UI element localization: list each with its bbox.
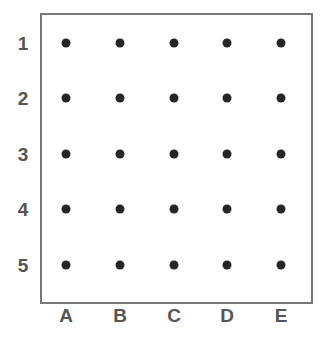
column-label-A: A	[59, 306, 73, 325]
grid-dot-B3[interactable]	[116, 150, 125, 159]
grid-dot-C2[interactable]	[170, 94, 179, 103]
grid-dot-A3[interactable]	[62, 150, 71, 159]
row-label-1: 1	[18, 34, 29, 53]
grid-dot-A4[interactable]	[62, 205, 71, 214]
column-label-C: C	[167, 306, 181, 325]
column-label-E: E	[275, 306, 288, 325]
grid-dot-B2[interactable]	[116, 94, 125, 103]
column-label-D: D	[220, 306, 234, 325]
grid-dot-matrix-figure: 12345 ABCDE	[0, 0, 331, 344]
grid-dot-E4[interactable]	[277, 205, 286, 214]
row-label-2: 2	[18, 89, 29, 108]
grid-dot-B4[interactable]	[116, 205, 125, 214]
grid-dot-A1[interactable]	[62, 39, 71, 48]
grid-dot-D1[interactable]	[223, 39, 232, 48]
grid-dot-E3[interactable]	[277, 150, 286, 159]
row-label-5: 5	[18, 256, 29, 275]
grid-dot-B1[interactable]	[116, 39, 125, 48]
grid-dot-C1[interactable]	[170, 39, 179, 48]
grid-dot-C5[interactable]	[170, 261, 179, 270]
grid-dot-D2[interactable]	[223, 94, 232, 103]
grid-dot-E2[interactable]	[277, 94, 286, 103]
grid-dot-A5[interactable]	[62, 261, 71, 270]
column-label-B: B	[113, 306, 127, 325]
row-label-3: 3	[18, 145, 29, 164]
grid-dot-E1[interactable]	[277, 39, 286, 48]
grid-dot-D3[interactable]	[223, 150, 232, 159]
grid-dot-C3[interactable]	[170, 150, 179, 159]
row-label-4: 4	[18, 200, 29, 219]
grid-dot-B5[interactable]	[116, 261, 125, 270]
grid-dot-E5[interactable]	[277, 261, 286, 270]
grid-dot-C4[interactable]	[170, 205, 179, 214]
grid-dot-A2[interactable]	[62, 94, 71, 103]
grid-dot-D5[interactable]	[223, 261, 232, 270]
grid-dot-D4[interactable]	[223, 205, 232, 214]
